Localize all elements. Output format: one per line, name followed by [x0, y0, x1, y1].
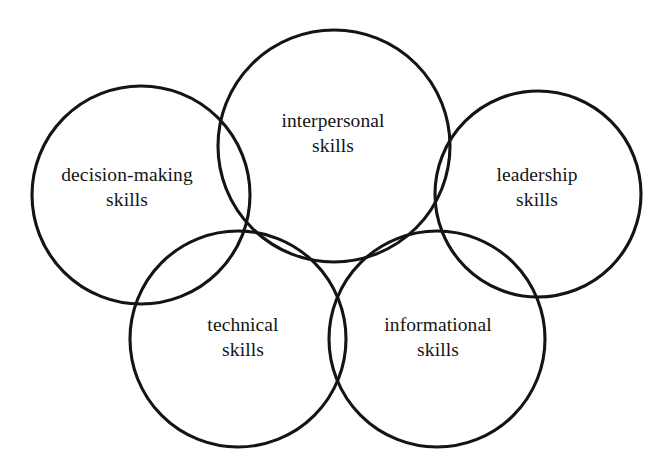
venn-circles-canvas — [0, 0, 666, 474]
venn-diagram: decision-making skills interpersonal ski… — [0, 0, 666, 474]
circle-informational — [329, 231, 545, 447]
circle-technical — [130, 231, 346, 447]
circle-interpersonal — [218, 30, 450, 262]
circle-leadership — [435, 91, 641, 297]
circle-decision-making — [32, 86, 250, 304]
